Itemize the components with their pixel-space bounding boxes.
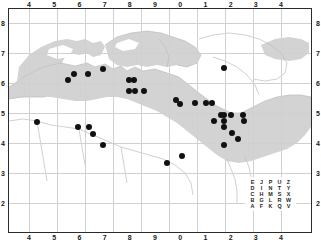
legend-cell: A <box>248 203 257 209</box>
data-point <box>179 153 185 159</box>
axis-tick-label: 3 <box>1 170 5 177</box>
data-point <box>221 124 227 130</box>
data-point <box>100 66 106 72</box>
axis-tick-label: 4 <box>27 1 31 8</box>
axis-tick-label: 4 <box>279 234 283 241</box>
gridline-horizontal <box>9 23 311 24</box>
distribution-map-figure: EJPUZDINTYCHMSXBGLRWAFKQV 45678901234 45… <box>0 0 321 242</box>
axis-tick-label: 8 <box>1 20 5 27</box>
axis-tick-label: 1 <box>203 234 207 241</box>
axis-tick-label: 2 <box>229 1 233 8</box>
data-point <box>229 130 235 136</box>
legend-cell: K <box>266 203 275 209</box>
gridline-horizontal <box>9 113 311 114</box>
axis-tick-label: 6 <box>316 80 320 87</box>
data-point <box>100 142 106 148</box>
legend-cell: Q <box>275 203 284 209</box>
data-point <box>65 77 71 83</box>
axis-tick-label: 4 <box>1 140 5 147</box>
axis-tick-label: 3 <box>316 170 320 177</box>
axis-tick-label: 1 <box>203 1 207 8</box>
gridline-horizontal <box>9 53 311 54</box>
axis-tick-label: 7 <box>316 50 320 57</box>
axis-tick-label: 5 <box>316 110 320 117</box>
axis-tick-label: 4 <box>316 140 320 147</box>
axis-tick-label: 8 <box>128 234 132 241</box>
legend-square-letters: EJPUZDINTYCHMSXBGLRWAFKQV <box>245 177 296 211</box>
axis-tick-label: 0 <box>178 234 182 241</box>
axis-tick-label: 6 <box>77 234 81 241</box>
gridline-horizontal <box>9 173 311 174</box>
gridline-horizontal <box>9 143 311 144</box>
legend-cell: V <box>284 203 293 209</box>
gridline-vertical <box>29 9 30 232</box>
gridline-vertical <box>57 9 58 232</box>
gridline-horizontal <box>9 83 311 84</box>
plot-area: EJPUZDINTYCHMSXBGLRWAFKQV <box>9 9 311 232</box>
axis-tick-label: 5 <box>1 110 5 117</box>
gridline-vertical <box>169 9 170 232</box>
axis-tick-label: 3 <box>254 234 258 241</box>
axis-tick-label: 8 <box>316 20 320 27</box>
axis-tick-label: 6 <box>77 1 81 8</box>
legend-cell: F <box>257 203 266 209</box>
data-point <box>34 119 40 125</box>
gridline-vertical <box>141 9 142 232</box>
gridline-vertical <box>113 9 114 232</box>
axis-tick-label: 6 <box>1 80 5 87</box>
axis-tick-label: 5 <box>52 1 56 8</box>
axis-tick-label: 9 <box>153 234 157 241</box>
axis-tick-label: 2 <box>1 200 5 207</box>
data-point <box>211 118 217 124</box>
axis-tick-label: 7 <box>103 234 107 241</box>
axis-tick-label: 7 <box>1 50 5 57</box>
axis-tick-label: 4 <box>27 234 31 241</box>
axis-tick-label: 7 <box>103 1 107 8</box>
data-point <box>221 65 227 71</box>
axis-tick-label: 2 <box>229 234 233 241</box>
axis-tick-label: 3 <box>254 1 258 8</box>
axis-tick-label: 4 <box>279 1 283 8</box>
gridline-vertical <box>197 9 198 232</box>
legend-row: AFKQV <box>248 203 293 209</box>
axis-tick-label: 0 <box>178 1 182 8</box>
data-point <box>177 101 183 107</box>
axis-tick-label: 9 <box>153 1 157 8</box>
data-point <box>241 118 247 124</box>
axis-tick-label: 2 <box>316 200 320 207</box>
data-point <box>221 142 227 148</box>
gridline-vertical <box>85 9 86 232</box>
axis-tick-label: 5 <box>52 234 56 241</box>
axis-tick-label: 8 <box>128 1 132 8</box>
